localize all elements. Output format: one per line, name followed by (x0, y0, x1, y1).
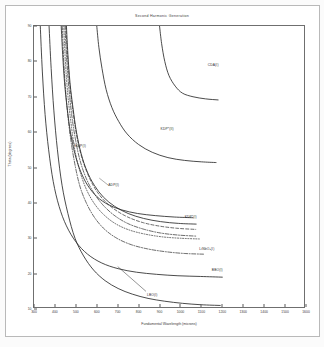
curve-kdp-ii- (65, 26, 196, 236)
y-tick-label: 50 (28, 166, 34, 170)
plot-area (34, 26, 304, 307)
x-tick-label: 400 (52, 307, 58, 314)
x-tick-label: 1500 (281, 307, 289, 314)
x-tick-label: 1400 (260, 307, 268, 314)
curve-label-cda-i-: CDA(I) (208, 63, 219, 67)
curve-label-adp-i-: ADP(I) (108, 183, 119, 187)
plot-frame: 1020304050607080903004005006007008009001… (33, 25, 305, 308)
figure-page: Second Harmonic Generation 1020304050607… (0, 0, 324, 347)
y-tick-mark (34, 96, 37, 97)
x-tick-label: 600 (94, 307, 100, 314)
y-tick-label: 80 (28, 59, 34, 63)
y-tick-mark (34, 167, 37, 168)
y-tick-mark (34, 238, 37, 239)
y-tick-label: 30 (28, 236, 34, 240)
curve-label-bbo-i-: BBO(I) (212, 268, 223, 272)
x-tick-label: 1000 (177, 307, 185, 314)
curve-label-linbo3-i-: LiNbO₃(I) (199, 247, 214, 251)
y-axis-label: Theta (degrees) (8, 114, 12, 194)
x-tick-label: 1200 (219, 307, 227, 314)
leader-line (99, 178, 108, 185)
y-tick-mark (34, 26, 37, 27)
chart-title: Second Harmonic Generation (0, 14, 324, 18)
x-tick-label: 1300 (239, 307, 247, 314)
x-tick-label: 800 (136, 307, 142, 314)
x-tick-label: 1600 (302, 307, 310, 314)
curve-layer (34, 26, 304, 307)
curve-kdp-i- (64, 26, 200, 239)
curve-label-kdp-ii-: KDP*(II) (161, 127, 174, 131)
y-tick-label: 40 (28, 201, 34, 205)
curve-kdp-ii- (97, 26, 216, 163)
x-tick-label: 300 (31, 307, 37, 314)
y-tick-label: 90 (28, 24, 34, 28)
y-tick-label: 20 (28, 272, 34, 276)
x-tick-label: 500 (73, 307, 79, 314)
y-tick-mark (34, 202, 37, 203)
curve-label-lbo-i-: LBO(I) (147, 293, 158, 297)
curve-lbo-i- (49, 26, 220, 305)
curve-label-kdp-i-: KDP*(I) (185, 215, 197, 219)
curve-adp-i- (66, 26, 196, 224)
curve-bbo-i- (40, 26, 222, 277)
y-tick-mark (34, 61, 37, 62)
leader-line-lbo (118, 267, 146, 292)
curve-adp-ii- (66, 26, 196, 229)
x-tick-label: 900 (157, 307, 163, 314)
y-tick-label: 60 (28, 130, 34, 134)
curve-label-kdp-i-: KDP(I) (75, 144, 86, 148)
x-axis-label: Fundamental Wavelength (microns) (33, 322, 305, 326)
y-tick-label: 70 (28, 95, 34, 99)
x-tick-label: 1100 (198, 307, 205, 314)
x-tick-label: 700 (115, 307, 121, 314)
y-tick-mark (34, 273, 37, 274)
y-tick-mark (34, 132, 37, 133)
